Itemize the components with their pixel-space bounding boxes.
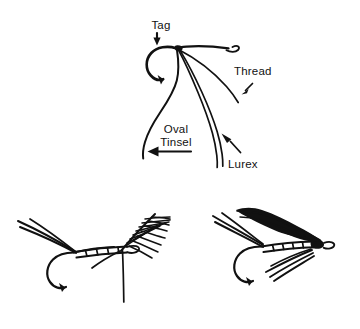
hook-bend-curl <box>147 47 176 84</box>
thread-arrow-icon <box>242 84 253 95</box>
hackle-feather-left <box>121 214 170 258</box>
label-thread-text: Thread <box>234 65 272 77</box>
label-oval-tinsel-line1: Oval <box>164 123 188 135</box>
hook-right <box>234 247 261 287</box>
fly-tying-figure: Tag Thread Oval Tinsel <box>0 0 360 329</box>
lurex-arrow-icon <box>222 134 241 153</box>
thread-strand <box>179 50 239 103</box>
tying-thread-left <box>92 251 124 303</box>
oval-tinsel-arrow-icon <box>148 147 192 157</box>
lurex-double-strand <box>179 51 223 168</box>
bottom-left-fly <box>18 214 170 302</box>
top-diagram-tie-in-detail: Tag Thread Oval Tinsel <box>143 19 272 170</box>
throat-hackle-right <box>266 249 314 281</box>
figure-canvas: Tag Thread Oval Tinsel <box>0 0 360 329</box>
label-lurex-text: Lurex <box>228 158 258 170</box>
bottom-right-fly <box>213 208 334 286</box>
hook-shank <box>177 46 229 48</box>
label-tag-text: Tag <box>151 19 170 31</box>
label-oval-tinsel: Oval Tinsel <box>148 123 192 156</box>
tail-fibers-left <box>18 219 76 253</box>
label-thread: Thread <box>234 65 272 95</box>
label-lurex: Lurex <box>222 134 258 171</box>
tag-arrow-icon <box>153 33 160 46</box>
label-tag: Tag <box>151 19 170 46</box>
label-oval-tinsel-line2: Tinsel <box>160 136 191 148</box>
